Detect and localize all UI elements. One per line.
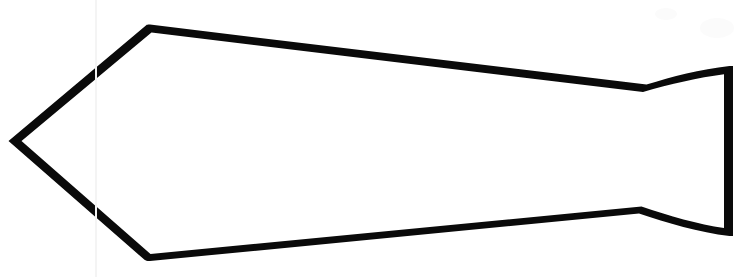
projectile-point-drawing: Lithic projectile point outline drawing … bbox=[0, 0, 752, 277]
figure-canvas: Lithic projectile point outline drawing … bbox=[0, 0, 752, 277]
